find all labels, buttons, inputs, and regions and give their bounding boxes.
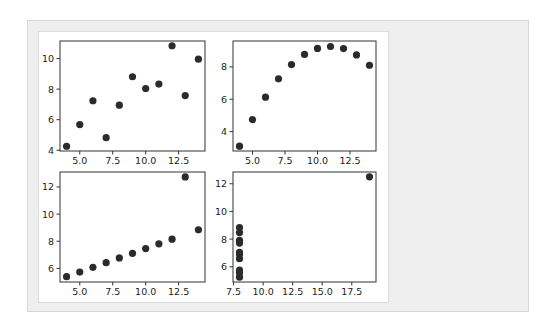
data-point	[288, 61, 295, 68]
data-point	[142, 245, 149, 252]
data-point	[275, 75, 282, 82]
y-tick-label: 6	[48, 114, 54, 125]
x-tick-label: 10.0	[135, 286, 156, 297]
data-point	[89, 264, 96, 271]
data-point	[116, 102, 123, 109]
subplot-4: 7.510.012.515.017.5681012	[215, 172, 376, 297]
x-tick-label: 7.5	[277, 155, 292, 166]
data-point	[155, 240, 162, 247]
data-point	[301, 51, 308, 58]
data-point	[76, 268, 83, 275]
data-point	[249, 116, 256, 123]
y-tick-label: 8	[221, 61, 227, 72]
x-tick-label: 10.0	[253, 286, 274, 297]
data-point	[168, 236, 175, 243]
data-point	[168, 42, 175, 49]
data-point	[76, 121, 83, 128]
y-tick-label: 12	[42, 181, 54, 192]
subplot-2: 5.07.510.012.5468	[221, 41, 376, 166]
x-tick-label: 10.0	[307, 155, 328, 166]
data-point	[116, 254, 123, 261]
data-point	[327, 43, 334, 50]
data-point	[129, 73, 136, 80]
x-tick-label: 15.0	[312, 286, 333, 297]
data-point	[236, 269, 243, 276]
data-point	[366, 62, 373, 69]
axes-frame	[233, 172, 376, 282]
y-tick-label: 10	[215, 206, 227, 217]
x-tick-label: 12.5	[168, 286, 189, 297]
y-tick-label: 10	[42, 209, 54, 220]
y-tick-label: 6	[48, 263, 54, 274]
x-tick-label: 10.0	[135, 155, 156, 166]
data-point	[340, 45, 347, 52]
data-point	[236, 237, 243, 244]
data-point	[236, 143, 243, 150]
subplot-3: 5.07.510.012.5681012	[42, 172, 205, 297]
x-tick-label: 12.5	[282, 286, 303, 297]
y-tick-label: 10	[42, 53, 54, 64]
data-point	[262, 94, 269, 101]
x-tick-label: 12.5	[339, 155, 360, 166]
data-point	[366, 173, 373, 180]
y-tick-label: 6	[221, 261, 227, 272]
data-point	[89, 97, 96, 104]
data-point	[182, 92, 189, 99]
x-tick-label: 17.5	[341, 286, 362, 297]
data-point	[236, 251, 243, 258]
scatter-matrix-figure: 5.07.510.012.5468105.07.510.012.54685.07…	[0, 0, 555, 334]
data-point	[103, 134, 110, 141]
x-tick-label: 5.0	[245, 155, 260, 166]
x-tick-label: 5.0	[72, 286, 87, 297]
data-point	[142, 85, 149, 92]
data-point	[353, 51, 360, 58]
data-point	[195, 56, 202, 63]
y-tick-label: 4	[48, 145, 54, 156]
data-point	[63, 273, 70, 280]
x-tick-label: 7.5	[105, 286, 120, 297]
data-point	[129, 250, 136, 257]
data-point	[236, 229, 243, 236]
data-point	[182, 173, 189, 180]
data-point	[103, 259, 110, 266]
y-tick-label: 12	[215, 178, 227, 189]
data-point	[63, 143, 70, 150]
x-tick-label: 7.5	[226, 286, 241, 297]
y-tick-label: 8	[221, 234, 227, 245]
x-tick-label: 5.0	[72, 155, 87, 166]
subplot-1: 5.07.510.012.546810	[42, 41, 205, 166]
y-tick-label: 8	[48, 84, 54, 95]
y-tick-label: 8	[48, 236, 54, 247]
x-tick-label: 12.5	[168, 155, 189, 166]
data-point	[155, 80, 162, 87]
y-tick-label: 6	[221, 94, 227, 105]
data-point	[314, 45, 321, 52]
y-tick-label: 4	[221, 126, 227, 137]
data-point	[195, 226, 202, 233]
axes-frame	[60, 172, 205, 282]
x-tick-label: 7.5	[105, 155, 120, 166]
